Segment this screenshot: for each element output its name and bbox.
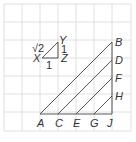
label-vertical-leg: 1 xyxy=(61,43,67,55)
label-a: A xyxy=(36,117,44,129)
small-triangle xyxy=(42,42,58,58)
geometry-diagram: X Y Z √2 1 1 A C E G J B D F H xyxy=(0,0,136,142)
label-g: G xyxy=(90,117,99,129)
label-h: H xyxy=(115,90,123,102)
label-j: J xyxy=(106,117,113,129)
label-f: F xyxy=(115,72,123,84)
label-d: D xyxy=(115,54,123,66)
label-b: B xyxy=(115,36,122,48)
label-hypotenuse: √2 xyxy=(32,42,44,54)
label-horizontal-leg: 1 xyxy=(46,59,52,71)
label-e: E xyxy=(73,117,81,129)
label-c: C xyxy=(55,117,63,129)
